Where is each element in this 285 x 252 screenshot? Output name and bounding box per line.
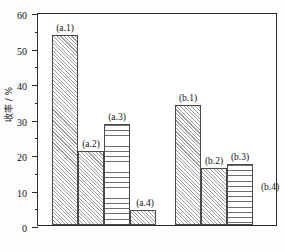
bar-label-a-4: (a.4) — [136, 198, 154, 208]
bar-label-b-1: (b.1) — [179, 93, 197, 103]
y-tick-label: 0 — [22, 223, 27, 234]
plot-area: 0102030405060 (a.1)(a.2)(a.3)(a.4)(b.1)(… — [37, 13, 277, 226]
chart-figure: 收率 / % 0102030405060 (a.1)(a.2)(a.3)(a.4… — [0, 0, 285, 252]
bar-label-b-3: (b.3) — [231, 152, 249, 162]
y-tick-0: 0 — [32, 227, 38, 228]
y-tick-10: 10 — [32, 192, 38, 193]
bar-label-a-1: (a.1) — [56, 23, 74, 33]
y-tick-minor — [35, 138, 39, 139]
y-tick-label: 10 — [17, 187, 27, 198]
y-tick-label: 60 — [17, 10, 27, 21]
y-tick-label: 20 — [17, 152, 27, 163]
y-tick-label: 40 — [17, 81, 27, 92]
bar-label-a-2: (a.2) — [82, 139, 100, 149]
bar-a-3 — [104, 124, 130, 225]
bar-b-1 — [175, 105, 201, 225]
y-axis-title: 收率 / % — [2, 75, 15, 135]
y-tick-label: 50 — [17, 45, 27, 56]
y-tick-60: 60 — [32, 14, 38, 15]
y-tick-label: 30 — [17, 116, 27, 127]
y-tick-50: 50 — [32, 50, 38, 51]
bar-label-a-3: (a.3) — [108, 112, 126, 122]
y-tick-minor — [35, 103, 39, 104]
bar-label-b-2: (b.2) — [205, 156, 223, 166]
y-tick-minor — [35, 32, 39, 33]
bar-b-3 — [227, 164, 253, 225]
y-tick-minor — [35, 67, 39, 68]
bar-a-2 — [78, 151, 104, 225]
y-tick-30: 30 — [32, 121, 38, 122]
bar-b-2 — [201, 168, 227, 225]
y-tick-20: 20 — [32, 156, 38, 157]
y-tick-minor — [35, 209, 39, 210]
y-tick-minor — [35, 174, 39, 175]
bar-a-1 — [52, 35, 78, 225]
y-tick-40: 40 — [32, 85, 38, 86]
bar-label-b-4: (b.4) — [261, 182, 279, 192]
bar-a-4 — [130, 210, 156, 225]
